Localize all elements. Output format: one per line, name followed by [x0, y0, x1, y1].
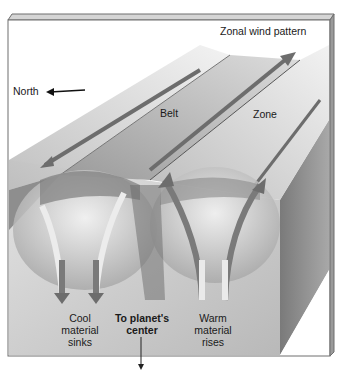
- zone-label: Zone: [253, 108, 277, 120]
- warm-material-label: Warm material rises: [183, 312, 243, 348]
- down-arrow-icon: [138, 364, 144, 370]
- planet-center-label: To planet's center: [106, 312, 178, 336]
- north-label: North: [13, 85, 39, 97]
- belt-zone-diagram: North Zonal wind pattern Belt Zone Cool …: [0, 0, 342, 370]
- belt-label: Belt: [160, 107, 178, 119]
- zonal-wind-label: Zonal wind pattern: [220, 25, 306, 37]
- cool-material-label: Cool material sinks: [50, 312, 110, 348]
